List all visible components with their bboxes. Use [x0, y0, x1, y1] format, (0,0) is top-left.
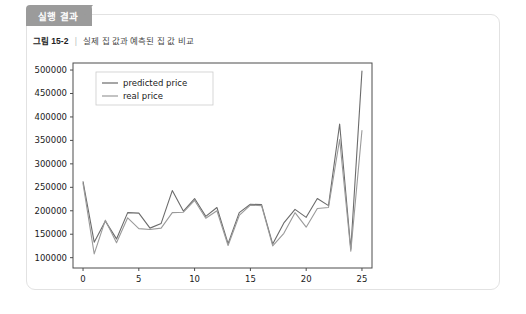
x-tick-label: 15 — [245, 274, 256, 284]
chart-legend: predicted pricereal price — [96, 72, 213, 105]
y-tick-label: 350000 — [35, 135, 67, 145]
figure-caption: 그림 15-2 | 실제 집 값과 예측된 집 값 비교 — [33, 34, 194, 46]
y-tick-label: 200000 — [35, 206, 67, 216]
y-tick-label: 400000 — [35, 112, 67, 122]
x-axis-tick-labels: 0510152025 — [80, 274, 367, 284]
line-chart: 1000001500002000002500003000003500004000… — [26, 55, 386, 290]
figure-caption-text: 실제 집 값과 예측된 집 값 비교 — [83, 36, 193, 46]
legend-label-real-price: real price — [123, 91, 163, 101]
caption-separator: | — [75, 36, 77, 46]
x-tick-label: 20 — [301, 274, 312, 284]
legend-label-predicted-price: predicted price — [123, 78, 187, 88]
y-tick-label: 150000 — [35, 229, 67, 239]
chart-container: 1000001500002000002500003000003500004000… — [26, 55, 386, 290]
result-tag-label: 실행 결과 — [38, 9, 78, 23]
result-tag-arrow-icon — [84, 5, 93, 16]
y-tick-label: 450000 — [35, 88, 67, 98]
result-tag: 실행 결과 — [26, 5, 92, 26]
series-line-real-price — [83, 131, 362, 254]
x-tick-label: 5 — [136, 274, 141, 284]
y-tick-label: 100000 — [35, 253, 67, 263]
x-tick-label: 0 — [80, 274, 85, 284]
y-axis-tick-labels: 1000001500002000002500003000003500004000… — [35, 65, 67, 263]
y-tick-label: 300000 — [35, 159, 67, 169]
x-tick-label: 10 — [189, 274, 200, 284]
y-tick-label: 500000 — [35, 65, 67, 75]
x-tick-label: 25 — [357, 274, 368, 284]
y-tick-label: 250000 — [35, 182, 67, 192]
figure-number: 그림 15-2 — [33, 36, 68, 46]
